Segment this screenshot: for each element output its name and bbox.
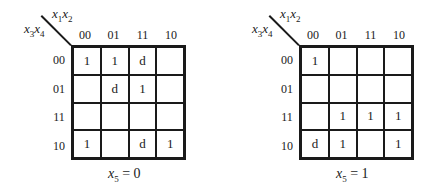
row-variables-label: x3x4 [24,21,45,39]
row-header: 11 [50,110,68,125]
kmap-cell [101,130,129,158]
kmap-cell: 1 [101,47,129,75]
row-header: 01 [278,82,296,97]
kmap-cell [329,75,357,103]
kmap-cell [156,103,184,131]
kmap-cell: d [301,130,329,158]
column-variables-label: x1x2 [280,6,301,24]
column-header: 00 [71,28,99,43]
kmap-cell [384,47,412,75]
column-header: 11 [356,28,385,43]
kmap-cell [129,103,157,131]
kmap-cell: 1 [384,103,412,131]
kmap-cell: 1 [384,130,412,158]
row-header: 10 [50,139,68,154]
karnaugh-map-x5-0: x1x2 x3x4 00 01 11 10 00 01 11 10 1 1 d … [0,0,217,191]
kmap-cell: 1 [73,130,101,158]
column-variables-label: x1x2 [52,6,73,24]
row-header: 00 [278,53,296,68]
kmap-cell: 1 [329,130,357,158]
kmap-cell [384,75,412,103]
column-header: 10 [385,28,413,43]
karnaugh-map-x5-1: x1x2 x3x4 00 01 11 10 00 01 11 10 1 1 1 … [228,0,434,191]
kmap-cell [156,75,184,103]
kmap-cell: 1 [129,75,157,103]
kmap-cell [357,75,385,103]
column-header: 01 [327,28,356,43]
kmap-cell: d [129,130,157,158]
kmap-cell [156,47,184,75]
kmap-cell: 1 [329,103,357,131]
kmap-cell: 1 [357,103,385,131]
row-header: 10 [278,139,296,154]
kmap-cell: 1 [73,47,101,75]
kmap-cell: d [129,47,157,75]
column-header: 01 [99,28,128,43]
kmap-cell: d [101,75,129,103]
kmap-cell [73,103,101,131]
column-header: 10 [157,28,185,43]
kmap-cell [73,75,101,103]
row-header: 11 [278,110,296,125]
kmap-grid: 1 1 d d 1 1 d 1 [71,45,186,160]
kmap-cell [301,103,329,131]
column-header: 00 [299,28,327,43]
kmap-cell [329,47,357,75]
kmap-cell [101,103,129,131]
map-caption: x5 = 1 [336,166,369,184]
row-header: 01 [50,82,68,97]
kmap-cell: 1 [301,47,329,75]
kmap-cell [357,47,385,75]
kmap-cell [301,75,329,103]
row-variables-label: x3x4 [252,21,273,39]
map-caption: x5 = 0 [108,166,141,184]
kmap-cell [357,130,385,158]
kmap-cell: 1 [156,130,184,158]
column-header: 11 [128,28,157,43]
row-header: 00 [50,53,68,68]
kmap-grid: 1 1 1 1 d 1 1 [299,45,414,160]
